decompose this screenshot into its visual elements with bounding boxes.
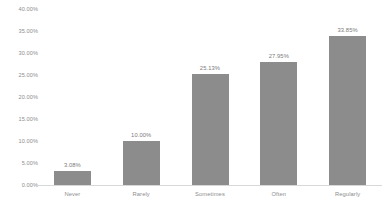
y-axis-tick-label: 0.00% [22,182,38,188]
bar[interactable] [54,171,91,185]
x-axis-line [38,185,382,186]
x-axis-category-label: Rarely [133,190,150,198]
bar-chart: 40.00%35.00%30.00%25.00%20.00%15.00%10.0… [0,0,386,210]
bar[interactable] [260,62,297,185]
bar-group: 25.13% [192,9,229,185]
bar[interactable] [192,74,229,185]
bar-group: 33.85% [329,9,366,185]
y-axis-tick-label: 35.00% [18,28,38,34]
y-axis-tick-label: 25.00% [18,72,38,78]
bar-group: 10.00% [123,9,160,185]
y-axis-tick-label: 20.00% [18,94,38,100]
y-axis-tick-label: 5.00% [22,160,38,166]
bar[interactable] [123,141,160,185]
plot-area: 40.00%35.00%30.00%25.00%20.00%15.00%10.0… [0,0,386,210]
y-axis-tick-label: 40.00% [18,6,38,12]
y-axis-tick-label: 10.00% [18,138,38,144]
bar-value-label: 27.95% [269,53,289,60]
x-axis-category-label: Often [271,190,286,198]
x-axis-category-label: Never [64,190,80,198]
bar-group: 27.95% [260,9,297,185]
x-axis-category-label: Sometimes [195,190,225,198]
bar-group: 3.08% [54,9,91,185]
y-axis-tick-label: 15.00% [18,116,38,122]
y-axis-tick-label: 30.00% [18,50,38,56]
x-axis-category-label: Regularly [335,190,360,198]
bars-container: 3.08%10.00%25.13%27.95%33.85% [38,9,382,185]
bar-value-label: 3.08% [64,162,81,169]
bar-value-label: 33.85% [337,27,357,34]
y-axis: 40.00%35.00%30.00%25.00%20.00%15.00%10.0… [0,0,40,210]
bar[interactable] [329,36,366,185]
bar-value-label: 25.13% [200,65,220,72]
x-axis-category-labels: NeverRarelySometimesOftenRegularly [38,190,382,204]
bar-value-label: 10.00% [131,132,151,139]
